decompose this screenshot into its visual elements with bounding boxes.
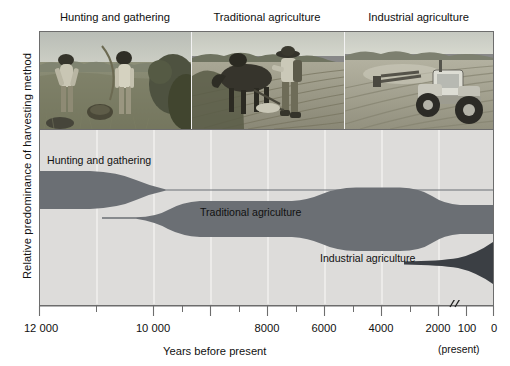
band-label-traditional-agriculture: Traditional agriculture — [200, 206, 301, 218]
photo-hunting-gathering — [40, 32, 191, 129]
x-axis: 12 000 10 000 8000 6000 4000 2000 100 0 … — [0, 300, 510, 366]
band-label-hunting-gathering: Hunting and gathering — [47, 154, 151, 166]
photo-industrial-agriculture — [344, 32, 493, 129]
xtick-10000: 10 000 — [136, 322, 170, 334]
x-axis-label: Years before present — [163, 345, 266, 357]
panel-caption-industrial-agriculture: Industrial agriculture — [343, 11, 494, 23]
panel-caption-hunting-gathering: Hunting and gathering — [39, 11, 191, 23]
xtick-12000: 12 000 — [24, 322, 58, 334]
xtick-8000: 8000 — [255, 322, 280, 334]
xtick-100: 100 — [458, 322, 477, 334]
panel-caption-traditional-agriculture: Traditional agriculture — [191, 11, 343, 23]
figure-root: Relative predominance of harvesting meth… — [0, 0, 510, 366]
photo-strip — [39, 31, 494, 130]
xtick-0: 0 — [491, 322, 497, 334]
band-label-industrial-agriculture: Industrial agriculture — [320, 252, 415, 264]
present-note: (present) — [438, 344, 480, 355]
xtick-4000: 4000 — [369, 322, 394, 334]
y-axis-label: Relative predominance of harvesting meth… — [21, 26, 33, 306]
band-traditional-agriculture — [102, 188, 493, 252]
xtick-2000: 2000 — [426, 322, 451, 334]
photo-traditional-agriculture — [191, 32, 343, 129]
xtick-6000: 6000 — [312, 322, 337, 334]
